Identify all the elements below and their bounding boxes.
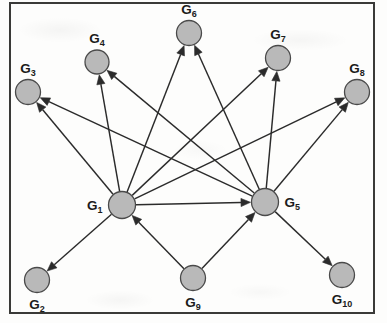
edge-g9-to-g5 xyxy=(202,213,255,269)
arrowhead xyxy=(40,98,50,106)
label-subscript: 1 xyxy=(97,205,102,215)
svg-text:G3: G3 xyxy=(20,61,36,78)
label-subscript: 8 xyxy=(360,68,365,78)
node-label-g6: G6 xyxy=(181,2,197,19)
graph-figure: G1G2G3G4G5G6G7G8G9G10 xyxy=(0,0,387,323)
edge-g5-to-g8 xyxy=(274,102,348,191)
edge-g5-to-g10 xyxy=(275,212,332,266)
edge-g1-to-g5 xyxy=(136,198,251,206)
edge-g9-to-g1 xyxy=(132,215,184,268)
label-base: G xyxy=(332,292,343,307)
label-subscript: 10 xyxy=(342,299,352,309)
node-g8[interactable] xyxy=(345,80,370,105)
edge-g1-to-g6 xyxy=(127,46,184,192)
arrowhead xyxy=(177,46,185,56)
edge-g1-to-g8 xyxy=(135,98,345,199)
node-label-g1: G1 xyxy=(87,198,103,215)
node-g7[interactable] xyxy=(266,46,291,71)
label-subscript: 2 xyxy=(40,304,45,314)
label-subscript: 7 xyxy=(281,34,286,44)
node-label-g9: G9 xyxy=(185,295,201,312)
label-subscript: 9 xyxy=(196,302,201,312)
node-label-g4: G4 xyxy=(89,31,105,48)
svg-text:G9: G9 xyxy=(185,295,201,312)
arrowhead xyxy=(97,75,105,85)
svg-text:G1: G1 xyxy=(87,198,103,215)
node-label-g5: G5 xyxy=(285,195,301,212)
svg-text:G2: G2 xyxy=(29,297,45,314)
edge-g1-to-g3 xyxy=(37,102,113,194)
label-base: G xyxy=(181,2,192,17)
label-base: G xyxy=(270,27,281,42)
edge-g1-to-g2 xyxy=(47,214,111,271)
arrowhead xyxy=(335,98,345,106)
svg-text:G8: G8 xyxy=(349,61,365,78)
label-subscript: 6 xyxy=(192,9,197,19)
label-base: G xyxy=(285,195,296,210)
node-label-g8: G8 xyxy=(349,61,365,78)
arrowhead xyxy=(195,45,203,55)
edge-g5-to-g6 xyxy=(195,45,260,189)
node-label-g10: G10 xyxy=(332,292,353,309)
svg-text:G4: G4 xyxy=(89,31,105,48)
label-base: G xyxy=(87,198,98,213)
svg-text:G10: G10 xyxy=(332,292,353,309)
node-g4[interactable] xyxy=(85,50,109,74)
label-base: G xyxy=(185,295,196,310)
label-base: G xyxy=(349,61,360,76)
node-g3[interactable] xyxy=(16,80,41,105)
svg-text:G6: G6 xyxy=(181,2,197,19)
label-base: G xyxy=(29,297,40,312)
label-base: G xyxy=(89,31,100,46)
node-label-g7: G7 xyxy=(270,27,286,44)
arrowhead xyxy=(241,198,251,206)
svg-text:G5: G5 xyxy=(285,195,301,212)
node-g6[interactable] xyxy=(177,21,202,46)
label-subscript: 3 xyxy=(31,68,36,78)
svg-text:G7: G7 xyxy=(270,27,286,44)
node-g1[interactable] xyxy=(109,192,136,219)
edges-layer xyxy=(37,45,349,271)
node-label-g3: G3 xyxy=(20,61,36,78)
label-subscript: 5 xyxy=(295,202,300,212)
node-label-g2: G2 xyxy=(29,297,45,314)
arrowhead xyxy=(272,71,280,81)
node-g10[interactable] xyxy=(330,263,355,288)
node-g9[interactable] xyxy=(181,266,206,291)
label-base: G xyxy=(20,61,31,76)
edge-g5-to-g4 xyxy=(107,70,254,193)
node-g2[interactable] xyxy=(25,268,50,293)
label-subscript: 4 xyxy=(100,38,105,48)
graph-canvas: G1G2G3G4G5G6G7G8G9G10 xyxy=(0,0,387,323)
edge-g1-to-g7 xyxy=(132,67,268,195)
node-g5[interactable] xyxy=(252,189,279,216)
